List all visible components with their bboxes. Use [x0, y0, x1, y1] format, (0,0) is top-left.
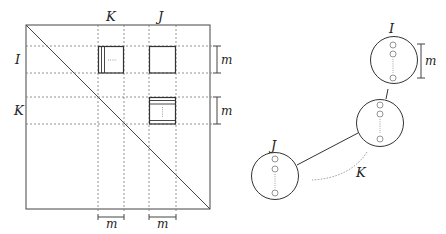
- bracket-label-m: m: [157, 217, 168, 231]
- bracket-label-m: m: [106, 217, 117, 231]
- node-I: [371, 37, 418, 84]
- node-I-bracket: [417, 44, 425, 78]
- node-label-I: I: [388, 21, 395, 36]
- bracket-right-top: [213, 46, 221, 73]
- bracket-label-m: m: [425, 54, 436, 68]
- edge-K-J: [297, 133, 358, 165]
- bracket-label-m: m: [221, 53, 232, 67]
- matrix-diagonal: [26, 25, 210, 209]
- edge-I-K: [386, 89, 388, 99]
- matrix-diagram: K J I K m m m m: [13, 9, 232, 231]
- col-label-J: J: [155, 9, 164, 24]
- node-label-J: J: [268, 138, 277, 153]
- block-I-J: [150, 47, 176, 74]
- block-I-K: [99, 47, 124, 74]
- col-label-K: K: [105, 9, 117, 24]
- bracket-right-bottom: [213, 97, 221, 124]
- row-label-I: I: [14, 52, 21, 67]
- edge-label-K: K: [355, 165, 367, 180]
- bracket-label-m: m: [221, 104, 232, 118]
- node-K: [357, 100, 404, 147]
- figure: K J I K m m m m: [0, 0, 446, 234]
- row-label-K: K: [13, 103, 25, 118]
- block-K-J: [150, 98, 176, 125]
- graph-diagram: K I m: [252, 21, 437, 200]
- node-J: [252, 153, 299, 200]
